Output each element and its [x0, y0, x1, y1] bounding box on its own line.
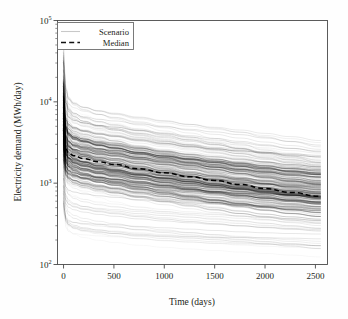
x-axis-title: Time (days) [169, 297, 215, 308]
x-tick-label: 0 [61, 271, 66, 281]
legend: Scenario Median [58, 23, 134, 50]
legend-label-median: Median [103, 38, 130, 48]
y-axis-title: Electricity demand (MWh/day) [13, 82, 24, 201]
legend-label-scenario: Scenario [99, 27, 129, 37]
chart-figure: 05001000150020002500 102103104105 Time (… [0, 0, 348, 319]
x-tick-label: 2000 [256, 271, 275, 281]
chart-canvas: 05001000150020002500 102103104105 Time (… [0, 0, 348, 319]
x-tick-label: 1500 [206, 271, 225, 281]
x-tick-label: 2500 [306, 271, 325, 281]
x-tick-label: 500 [107, 271, 121, 281]
x-tick-label: 1000 [155, 271, 174, 281]
